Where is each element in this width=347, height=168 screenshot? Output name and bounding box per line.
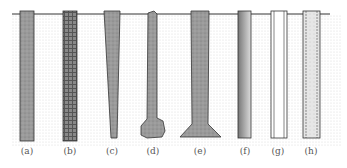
label-d: (d) bbox=[141, 146, 165, 156]
label-g: (g) bbox=[266, 146, 290, 156]
label-h: (h) bbox=[299, 146, 323, 156]
pile-b bbox=[63, 11, 77, 141]
label-a: (a) bbox=[15, 146, 39, 156]
pile-f bbox=[238, 11, 251, 138]
pile-types-diagram bbox=[0, 0, 347, 168]
label-c: (c) bbox=[100, 146, 124, 156]
label-f: (f) bbox=[233, 146, 257, 156]
label-e: (e) bbox=[188, 146, 212, 156]
pile-a bbox=[20, 11, 34, 141]
pile-g bbox=[271, 11, 287, 138]
soil-area bbox=[12, 14, 342, 146]
label-b: (b) bbox=[58, 146, 82, 156]
pile-h bbox=[303, 11, 320, 138]
